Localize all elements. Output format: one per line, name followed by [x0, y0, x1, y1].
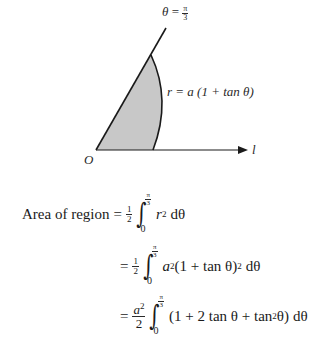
integrand-a: a: [163, 258, 171, 275]
coefficient-half: 1 2: [126, 205, 133, 224]
integrand: r: [156, 206, 162, 223]
integral-sign: ∫ π3 0: [134, 200, 149, 228]
equation-line-2: = 1 2 ∫ π3 0 a2(1 + tan θ)2 dθ: [120, 252, 260, 280]
equation-line-1: Area of region = 1 2 ∫ π3 0 r2 dθ: [22, 200, 185, 228]
origin-label: O: [84, 152, 93, 168]
upper-limit: π3: [152, 244, 158, 259]
equals-sign: =: [120, 308, 128, 325]
shaded-region: [96, 55, 162, 150]
lower-limit: 0: [147, 275, 152, 286]
theta-symbol: θ: [162, 4, 168, 19]
lower-limit: 0: [140, 223, 145, 234]
ray-label: θ = π 3: [162, 4, 188, 22]
integral-sign: ∫ π3 0: [141, 252, 156, 280]
integrand: (1 + 2 tan θ + tan: [169, 308, 272, 325]
integrand-body: (1 + tan θ): [175, 258, 238, 275]
area-label: Area of region: [22, 206, 109, 223]
equals-sign: =: [113, 206, 121, 223]
upper-limit: π3: [158, 294, 164, 309]
equation-line-3: = a2 2 ∫ π3 0 (1 + 2 tan θ + tan2 θ) dθ: [120, 302, 308, 330]
differential: dθ: [246, 258, 261, 275]
coefficient-a-squared-over-2: a2 2: [132, 303, 145, 330]
initial-line-label: l: [252, 142, 256, 158]
polar-region-diagram: O l θ = π 3 r = a (1 + tan θ): [0, 0, 326, 180]
curve-label: r = a (1 + tan θ): [167, 84, 254, 100]
equals-sign: =: [172, 4, 179, 19]
integral-sign: ∫ π3 0: [147, 302, 162, 330]
equals-sign: =: [120, 258, 128, 275]
lower-limit: 0: [153, 325, 158, 336]
differential: dθ: [170, 206, 185, 223]
fraction-pi-over-3: π 3: [182, 5, 188, 22]
upper-limit: π3: [145, 192, 151, 207]
polar-sector-graphic: [0, 0, 326, 180]
differential: dθ: [293, 308, 308, 325]
arrowhead-icon: [238, 146, 248, 154]
coefficient-half: 1 2: [132, 257, 139, 276]
